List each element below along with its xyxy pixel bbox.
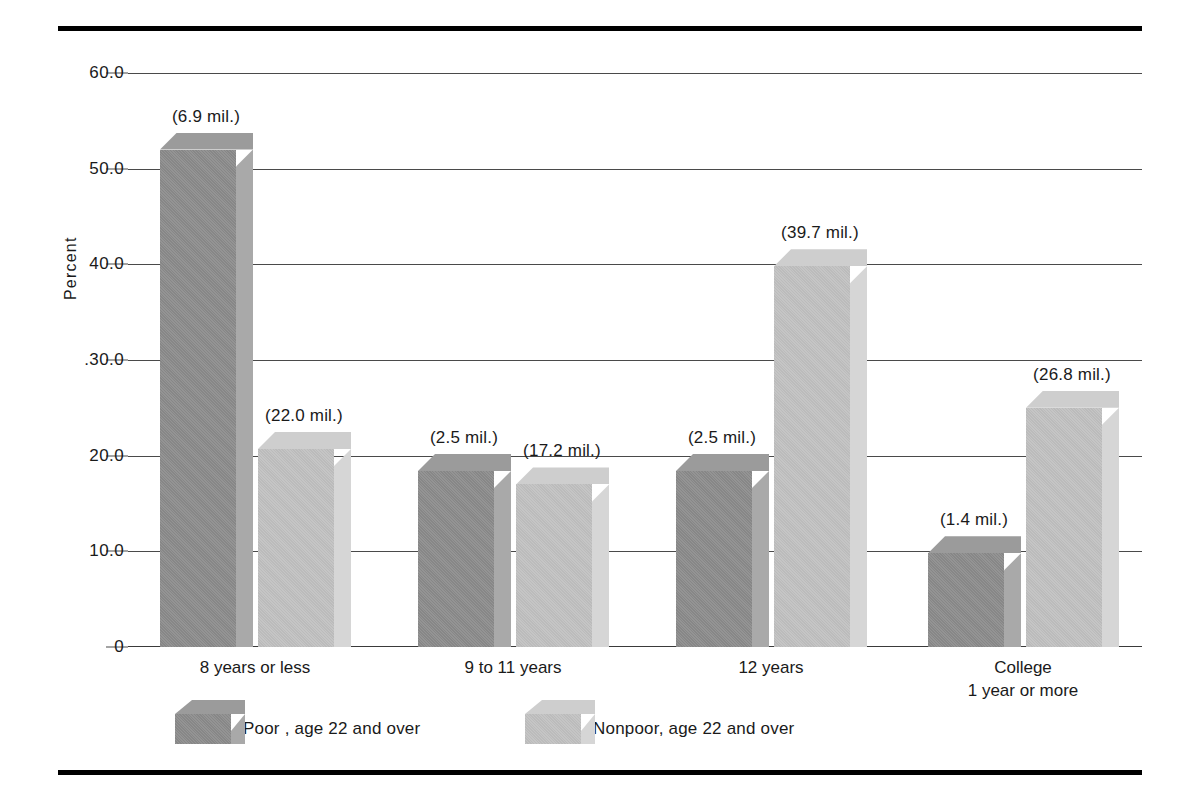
bar-value-label: (39.7 mil.) [781,223,859,243]
bar-value-label: (17.2 mil.) [523,441,601,461]
gridline [128,264,1142,265]
bar-top-face [258,432,351,449]
bar [258,449,334,647]
bar-front-face [258,449,334,647]
legend-swatch-side [581,714,595,744]
legend-swatch-top [525,700,595,714]
x-axis-category-label: College1 year or more [968,657,1079,703]
legend-swatch-front [525,714,581,744]
bar [418,471,494,647]
legend-swatch-side [231,714,245,744]
bar-side-face [1004,553,1021,647]
bar [774,266,850,647]
y-axis-tick-label: 0 [114,637,128,657]
bar-side-face [752,471,769,647]
bar-value-label: (22.0 mil.) [265,406,343,426]
x-axis-category-label: 12 years [738,657,803,680]
y-axis-tick-label: 20.0 [89,446,128,466]
legend-swatch-front [175,714,231,744]
bar-side-face [334,449,351,647]
x-axis-category-label: 8 years or less [200,657,311,680]
bar-side-face [494,471,511,647]
bottom-rule [58,770,1142,775]
x-axis-category-label: 9 to 11 years [464,657,561,680]
plot-area: 60.050.040.0.30.020.010.00(6.9 mil.)(2.5… [128,73,1142,647]
y-axis-tick-label: .30.0 [84,350,128,370]
bar-value-label: (26.8 mil.) [1033,365,1111,385]
legend-swatch [525,714,581,744]
bar [676,471,752,647]
bar-front-face [160,150,236,647]
bar-top-face [160,133,253,150]
bar-front-face [418,471,494,647]
y-axis-tick-label: 10.0 [89,541,128,561]
bar-side-face [236,150,253,647]
bar-top-face [516,467,609,484]
gridline [128,360,1142,361]
legend-swatch [175,714,231,744]
legend-item[interactable]: Nonpoor, age 22 and over [525,714,794,744]
bar-front-face [516,484,592,647]
legend-swatch-top [175,700,245,714]
bar-value-label: (6.9 mil.) [172,107,240,127]
bar [1026,408,1102,647]
y-axis-label: Percent [62,236,80,300]
bar-side-face [850,266,867,647]
bar-value-label: (2.5 mil.) [430,428,498,448]
top-rule [58,26,1142,31]
category-label-line: College [968,657,1079,680]
bar-front-face [676,471,752,647]
category-label-line: 1 year or more [968,680,1079,703]
gridline [128,169,1142,170]
legend-label: Poor , age 22 and over [243,719,420,739]
y-axis-tick-label: 40.0 [89,254,128,274]
bar-front-face [774,266,850,647]
y-axis-tick-label: 50.0 [89,159,128,179]
category-label-line: 12 years [738,657,803,680]
category-label-line: 9 to 11 years [464,657,561,680]
legend-label: Nonpoor, age 22 and over [593,719,794,739]
chart-legend: Poor , age 22 and overNonpoor, age 22 an… [0,706,1200,756]
bar [928,553,1004,647]
bar [516,484,592,647]
category-label-line: 8 years or less [200,657,311,680]
gridline [128,73,1142,74]
y-axis-tick-label: 60.0 [89,63,128,83]
chart-page: Percent 60.050.040.0.30.020.010.00(6.9 m… [0,0,1200,799]
bar-side-face [592,484,609,647]
bar-front-face [1026,408,1102,647]
bar-top-face [928,536,1021,553]
bar-top-face [1026,391,1119,408]
bar [160,150,236,647]
legend-item[interactable]: Poor , age 22 and over [175,714,420,744]
bar-front-face [928,553,1004,647]
bar-value-label: (1.4 mil.) [940,510,1008,530]
bar-value-label: (2.5 mil.) [688,428,756,448]
bar-side-face [1102,408,1119,647]
bar-top-face [774,249,867,266]
